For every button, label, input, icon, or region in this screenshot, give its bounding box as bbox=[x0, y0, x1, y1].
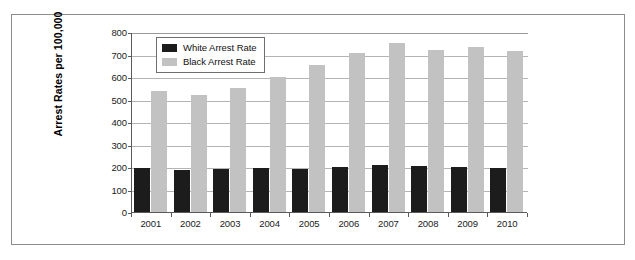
bar-group-2007 bbox=[370, 32, 410, 212]
x-tick-label-2005: 2005 bbox=[289, 219, 329, 229]
bar-white-arrest-rate-2001 bbox=[134, 168, 150, 212]
y-tick-label-500: 500 bbox=[93, 96, 127, 106]
legend-label-black-arrest-rate: Black Arrest Rate bbox=[183, 57, 256, 67]
x-tick-label-2004: 2004 bbox=[250, 219, 290, 229]
y-axis-tick-labels: 8007006005004003002001000 bbox=[89, 33, 127, 213]
legend-item-black-arrest-rate: Black Arrest Rate bbox=[162, 56, 257, 68]
y-tick-label-300: 300 bbox=[93, 141, 127, 151]
y-tick-label-600: 600 bbox=[93, 73, 127, 83]
bar-group-2005 bbox=[290, 32, 330, 212]
chart-legend: White Arrest Rate Black Arrest Rate bbox=[156, 37, 265, 73]
x-tick-mark-5 bbox=[329, 213, 330, 217]
bar-white-arrest-rate-2010 bbox=[490, 168, 506, 212]
bar-black-arrest-rate-2005 bbox=[309, 65, 325, 212]
bar-group-2010 bbox=[488, 32, 528, 212]
bar-group-2006 bbox=[330, 32, 370, 212]
bar-white-arrest-rate-2009 bbox=[451, 167, 467, 212]
bar-white-arrest-rate-2007 bbox=[372, 165, 388, 212]
x-tick-label-2003: 2003 bbox=[210, 219, 250, 229]
x-tick-label-2007: 2007 bbox=[368, 219, 408, 229]
x-tick-mark-3 bbox=[250, 213, 251, 217]
y-tick-label-700: 700 bbox=[93, 51, 127, 61]
bar-black-arrest-rate-2002 bbox=[191, 95, 207, 212]
y-tick-label-800: 800 bbox=[93, 28, 127, 38]
y-tick-label-200: 200 bbox=[93, 163, 127, 173]
x-tick-mark-end bbox=[527, 213, 528, 217]
x-tick-label-2008: 2008 bbox=[408, 219, 448, 229]
x-tick-label-2006: 2006 bbox=[329, 219, 369, 229]
bar-white-arrest-rate-2004 bbox=[253, 168, 269, 212]
bar-black-arrest-rate-2003 bbox=[230, 88, 246, 212]
bar-black-arrest-rate-2009 bbox=[468, 47, 484, 212]
y-tick-label-0: 0 bbox=[93, 208, 127, 218]
x-tick-mark-2 bbox=[210, 213, 211, 217]
x-tick-label-2002: 2002 bbox=[170, 219, 210, 229]
legend-label-white-arrest-rate: White Arrest Rate bbox=[183, 43, 257, 53]
bar-group-2008 bbox=[409, 32, 449, 212]
bar-black-arrest-rate-2007 bbox=[389, 43, 405, 212]
bar-white-arrest-rate-2005 bbox=[292, 169, 308, 212]
bar-black-arrest-rate-2006 bbox=[349, 53, 365, 212]
bar-white-arrest-rate-2006 bbox=[332, 167, 348, 212]
x-tick-label-2009: 2009 bbox=[448, 219, 488, 229]
x-tick-mark-9 bbox=[487, 213, 488, 217]
y-tick-label-100: 100 bbox=[93, 186, 127, 196]
x-tick-mark-4 bbox=[289, 213, 290, 217]
x-tick-mark-8 bbox=[448, 213, 449, 217]
x-tick-label-2010: 2010 bbox=[487, 219, 527, 229]
bar-black-arrest-rate-2010 bbox=[507, 51, 523, 212]
y-tick-label-400: 400 bbox=[93, 118, 127, 128]
bar-black-arrest-rate-2008 bbox=[428, 50, 444, 212]
y-axis-title: Arrest Rates per 100,000 bbox=[52, 0, 64, 154]
bar-chart: Arrest Rates per 100,000 800700600500400… bbox=[0, 0, 635, 260]
bar-white-arrest-rate-2008 bbox=[411, 166, 427, 212]
bar-black-arrest-rate-2004 bbox=[270, 77, 286, 212]
x-tick-mark-6 bbox=[369, 213, 370, 217]
legend-swatch-white-arrest-rate bbox=[162, 44, 177, 52]
bar-black-arrest-rate-2001 bbox=[151, 91, 167, 212]
x-tick-mark-7 bbox=[408, 213, 409, 217]
x-tick-mark-0 bbox=[131, 213, 132, 217]
x-tick-mark-1 bbox=[171, 213, 172, 217]
bar-white-arrest-rate-2003 bbox=[213, 169, 229, 212]
x-axis-tick-labels: 2001200220032004200520062007200820092010 bbox=[131, 219, 527, 233]
x-tick-label-2001: 2001 bbox=[131, 219, 171, 229]
legend-swatch-black-arrest-rate bbox=[162, 58, 177, 66]
legend-item-white-arrest-rate: White Arrest Rate bbox=[162, 42, 257, 54]
bar-group-2009 bbox=[449, 32, 489, 212]
bar-white-arrest-rate-2002 bbox=[174, 170, 190, 212]
